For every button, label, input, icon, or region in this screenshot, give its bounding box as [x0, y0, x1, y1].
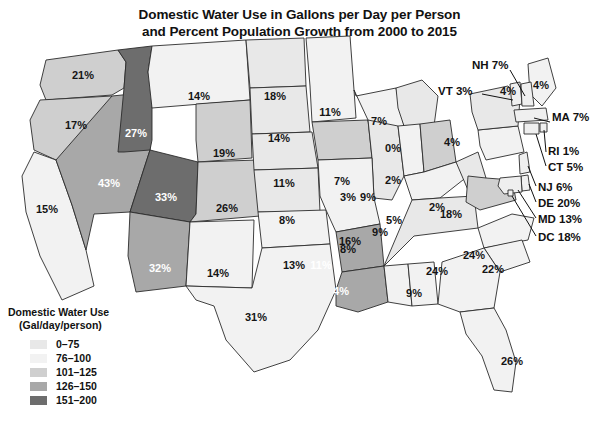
state-ks[interactable]	[254, 168, 320, 212]
callout-label-md: MD 13%	[538, 213, 582, 225]
state-value-label-la: 4%	[333, 285, 349, 297]
state-value-label-ne: 11%	[273, 177, 295, 189]
state-value-label-mn: 11%	[319, 106, 341, 118]
chart-title-line1: Domestic Water Use in Gallons per Day pe…	[0, 6, 599, 23]
state-value-label-or: 17%	[65, 119, 87, 131]
state-fl[interactable]	[460, 308, 516, 392]
legend-item: 126–150	[8, 379, 109, 393]
state-value-label-oh: 2%	[385, 174, 401, 186]
legend-item: 101–125	[8, 365, 109, 379]
state-value-label-wa: 21%	[72, 69, 94, 81]
state-ms[interactable]	[384, 264, 412, 306]
state-value-label-ny: 4%	[500, 85, 516, 97]
callout-label-ct: CT 5%	[548, 161, 583, 173]
state-value-label-nd: 18%	[264, 90, 286, 102]
state-value-label-mi: 0%	[385, 142, 401, 154]
state-value-label-az: 32%	[149, 262, 171, 274]
state-ct[interactable]	[524, 123, 539, 134]
leader-line-de	[529, 184, 536, 202]
legend-label: 151–200	[56, 394, 97, 406]
state-value-label-il: 3%	[340, 191, 356, 203]
chart-title-line2: and Percent Population Growth from 2000 …	[0, 23, 599, 40]
legend-label: 76–100	[56, 352, 91, 364]
legend-item: 0–75	[8, 337, 109, 351]
state-ia[interactable]	[312, 120, 372, 160]
state-ri[interactable]	[540, 123, 547, 132]
state-nd[interactable]	[246, 38, 306, 88]
leader-line-ri	[544, 130, 546, 152]
state-value-label-ga: 24%	[426, 265, 448, 277]
legend-label: 126–150	[56, 380, 97, 392]
legend: Domestic Water Use (Gal/day/person) 0–75…	[8, 306, 109, 407]
callout-label-de: DE 20%	[538, 197, 580, 209]
state-value-label-nc: 24%	[463, 249, 485, 261]
chart-title: Domestic Water Use in Gallons per Day pe…	[0, 6, 599, 40]
legend-title: Domestic Water Use (Gal/day/person)	[8, 306, 109, 332]
callout-label-ma: MA 7%	[552, 111, 589, 123]
legend-items: 0–7576–100101–125126–150151–200	[8, 337, 109, 407]
state-value-label-ar: 11%	[310, 259, 332, 271]
state-value-label-in: 9%	[360, 191, 376, 203]
state-value-label-ok: 13%	[283, 259, 305, 271]
legend-label: 101–125	[56, 366, 97, 378]
legend-label: 0–75	[56, 338, 79, 350]
state-value-label-va: 18%	[440, 208, 462, 220]
state-value-label-ut: 33%	[155, 191, 177, 203]
state-nj[interactable]	[519, 152, 530, 174]
state-value-label-wi: 7%	[371, 115, 387, 127]
state-value-label-mt: 14%	[188, 90, 210, 102]
callout-label-nh: NH 7%	[472, 59, 508, 71]
state-value-label-nm: 14%	[207, 267, 229, 279]
state-value-label-me: 4%	[533, 79, 549, 91]
state-value-label-wy: 19%	[213, 147, 235, 159]
state-value-label-ms: 5%	[386, 214, 402, 226]
legend-swatch	[30, 354, 47, 363]
state-mi[interactable]	[396, 80, 438, 126]
state-value-label-pa: 4%	[444, 136, 460, 148]
legend-title-line2: (Gal/day/person)	[8, 319, 109, 332]
state-dc[interactable]	[508, 190, 513, 196]
state-de[interactable]	[521, 175, 530, 191]
callout-label-nj: NJ 6%	[538, 181, 573, 193]
legend-item: 151–200	[8, 393, 109, 407]
state-value-label-sd: 14%	[268, 132, 290, 144]
legend-swatch	[30, 368, 47, 377]
state-value-label-ky: 9%	[372, 226, 388, 238]
state-az[interactable]	[128, 212, 190, 292]
state-value-label-id: 27%	[125, 127, 147, 139]
state-value-label-ca: 15%	[36, 203, 58, 215]
legend-swatch	[30, 396, 47, 405]
state-value-label-tx: 31%	[245, 311, 267, 323]
state-value-label-co: 26%	[216, 202, 238, 214]
callout-label-dc: DC 18%	[538, 231, 581, 243]
state-value-label-tn: 16%	[339, 235, 361, 247]
callout-label-vt: VT 3%	[438, 85, 473, 97]
state-pa[interactable]	[478, 126, 524, 160]
state-value-label-sc: 22%	[482, 263, 504, 275]
state-value-label-ks: 8%	[279, 214, 295, 226]
callout-label-ri: RI 1%	[548, 145, 579, 157]
state-value-label-ia: 7%	[334, 175, 350, 187]
choropleth-map-figure: Domestic Water Use in Gallons per Day pe…	[0, 0, 599, 435]
legend-swatch	[30, 340, 47, 349]
legend-title-line1: Domestic Water Use	[8, 306, 109, 319]
legend-swatch	[30, 382, 47, 391]
legend-item: 76–100	[8, 351, 109, 365]
state-value-label-fl: 26%	[501, 355, 523, 367]
state-value-label-nv: 43%	[98, 177, 120, 189]
state-value-label-al: 9%	[406, 287, 422, 299]
